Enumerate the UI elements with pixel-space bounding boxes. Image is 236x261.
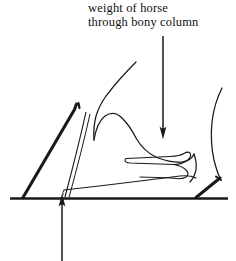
hoof-diagram-svg: [0, 0, 236, 261]
toe-wall: [23, 103, 80, 198]
coffin-bone: [125, 152, 191, 179]
caption: weight of horse through bony column: [88, 1, 236, 29]
downward-load-arrow: [160, 36, 167, 140]
inner-toe-wall: [65, 112, 90, 198]
pastern-rear: [211, 88, 222, 178]
hoof-diagram-figure: weight of horse through bony column: [0, 0, 236, 261]
heel-wall: [196, 177, 221, 198]
caption-line-1: weight of horse: [88, 1, 236, 15]
upward-ground-reaction-arrow: [59, 194, 66, 261]
caption-line-2: through bony column: [88, 15, 236, 29]
